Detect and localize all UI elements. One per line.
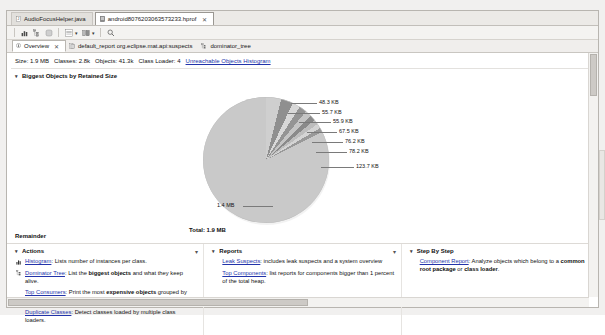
editor-tab-hprof[interactable]: android8076203063573233.hprof ✕ [95, 12, 215, 25]
vertical-scrollbar[interactable] [588, 53, 598, 297]
report-top-components-text: Top Components: list reports for compone… [222, 270, 394, 286]
pie-chart: 48.3 KB 55.7 KB 55.9 KB 67.5 KB 76.2 KB … [7, 81, 598, 231]
slice-label-8: 1.4 MB [217, 202, 234, 208]
slice-label-1: 48.3 KB [319, 99, 339, 105]
tab-overview[interactable]: Overview ✕ [12, 40, 66, 52]
mat-tab-row: Overview ✕ default_report org.eclipse.ma… [7, 40, 598, 53]
editor-toolbar: ▾ ▾ [7, 26, 598, 40]
action-histogram[interactable]: Histogram: Lists number of instances per… [15, 258, 197, 266]
close-icon[interactable]: ✕ [54, 43, 59, 50]
panel-step-by-step: ▾ Step By Step Component Report: Analyze… [401, 244, 598, 335]
editor-tab-java-label: AudioFocusHelper.java [24, 16, 86, 22]
group-by-button[interactable] [81, 28, 90, 37]
unreachable-objects-histogram-link[interactable]: Unreachable Objects Histogram [186, 58, 271, 64]
horizontal-scrollbar[interactable] [7, 297, 589, 307]
leader-line-8 [243, 206, 273, 207]
panel-reports-header: ▾ Reports ▾ [212, 248, 394, 254]
panel-reports: ▾ Reports ▾ Leak Suspects: includes leak… [203, 244, 400, 335]
chevron-down-icon[interactable]: ▾ [15, 73, 18, 79]
group-by-caret-icon[interactable]: ▾ [92, 30, 95, 36]
histogram-desc: : Lists number of instances per class. [51, 258, 146, 264]
dominator-tree-link[interactable]: Dominator Tree [25, 270, 65, 276]
editor-tab-java[interactable]: J AudioFocusHelper.java [11, 12, 93, 25]
histogram-icon [15, 258, 22, 266]
panel-step-by-step-title: Step By Step [417, 248, 454, 254]
tree-icon [201, 43, 207, 50]
java-file-icon: J [16, 16, 21, 23]
dominator-tree-icon [15, 270, 22, 286]
chart-section-title: Biggest Objects by Retained Size [22, 73, 117, 79]
heap-summary-line: Size: 1.9 MB Classes: 2.8k Objects: 41.3… [7, 53, 598, 68]
panel-actions-collapse-icon[interactable]: ▾ [195, 248, 198, 255]
chevron-down-icon[interactable]: ▾ [410, 248, 413, 254]
classes-label: Classes: [54, 58, 77, 64]
oql-button[interactable] [44, 28, 53, 37]
size-label: Size: [15, 58, 28, 64]
leader-line-5 [312, 142, 343, 143]
action-dominator-tree-text: Dominator Tree: List the biggest objects… [25, 270, 197, 286]
objects-value: 41.3k [119, 58, 134, 64]
report-top-components[interactable]: Top Components: list reports for compone… [212, 270, 394, 286]
action-duplicate-classes[interactable]: Duplicate Classes: Detect classes loaded… [15, 309, 197, 325]
close-icon[interactable]: ✕ [202, 16, 207, 23]
report-leak-suspects[interactable]: Leak Suspects: includes leak suspects an… [212, 258, 394, 266]
leader-line-2 [288, 113, 320, 114]
histogram-button[interactable] [20, 28, 29, 37]
heap-dump-icon [100, 16, 105, 23]
top-components-link[interactable]: Top Components [222, 270, 266, 276]
editor-tab-hprof-label: android8076203063573233.hprof [108, 16, 197, 22]
action-dominator-tree[interactable]: Dominator Tree: List the biggest objects… [15, 270, 197, 286]
chart-section-header: ▾ Biggest Objects by Retained Size [7, 69, 598, 81]
classloader-value: 4 [177, 58, 180, 64]
vertical-scrollbar-thumb[interactable] [590, 54, 597, 96]
query-browser-button[interactable] [106, 28, 115, 37]
action-histogram-text: Histogram: Lists number of instances per… [25, 258, 147, 266]
thread-overview-button[interactable] [64, 28, 73, 37]
tab-default-report-label: default_report org.eclipse.mat.api:suspe… [78, 43, 192, 49]
right-side-rail [599, 150, 605, 220]
editor-tab-bar: J AudioFocusHelper.java android807620306… [7, 11, 598, 26]
panel-reports-collapse-icon[interactable]: ▾ [393, 248, 396, 255]
remainder-label: Remainder [7, 231, 598, 243]
pie-total-label: Total: 1.9 MB [189, 227, 226, 233]
toolbar-separator-3 [100, 28, 101, 37]
dominator-tree-button[interactable] [32, 28, 41, 37]
panel-actions-header: ▾ Actions ▾ [15, 248, 197, 254]
duplicate-classes-link[interactable]: Duplicate Classes [25, 309, 71, 315]
tab-default-report[interactable]: default_report org.eclipse.mat.api:suspe… [66, 40, 198, 52]
objects-label: Objects: [95, 58, 117, 64]
slice-label-6: 78.2 KB [349, 148, 369, 154]
classes-value: 2.8k [79, 58, 90, 64]
overview-content: Size: 1.9 MB Classes: 2.8k Objects: 41.3… [7, 53, 598, 307]
step-component-report-text: Component Report: Analyze objects which … [420, 258, 592, 274]
panel-reports-title: Reports [219, 248, 242, 254]
chevron-down-icon[interactable]: ▾ [212, 248, 215, 254]
tab-dominator-tree-label: dominator_tree [210, 43, 250, 49]
slice-label-3: 55.9 KB [333, 118, 353, 124]
leader-line-1 [291, 103, 317, 104]
tab-overview-label: Overview [24, 43, 49, 49]
panel-actions: ▾ Actions ▾ Histogram: Lists number of i… [7, 244, 203, 335]
top-consumers-link[interactable]: Top Consumers [25, 289, 66, 295]
chevron-down-icon[interactable]: ▾ [15, 248, 18, 254]
histogram-link[interactable]: Histogram [25, 258, 51, 264]
thread-overview-caret-icon[interactable]: ▾ [75, 30, 78, 36]
panel-step-by-step-header: ▾ Step By Step [410, 248, 592, 254]
horizontal-scrollbar-thumb[interactable] [8, 299, 308, 306]
tab-dominator-tree[interactable]: dominator_tree [198, 40, 256, 52]
panel-actions-title: Actions [22, 248, 44, 254]
leader-line-4 [307, 132, 337, 133]
editor-frame: J AudioFocusHelper.java android807620306… [6, 10, 599, 308]
toolbar-separator-2 [58, 28, 59, 37]
svg-text:J: J [18, 17, 20, 21]
component-report-link[interactable]: Component Report [420, 258, 469, 264]
toolbar-separator [14, 28, 15, 37]
slice-label-4: 67.5 KB [339, 128, 359, 134]
slice-label-5: 76.2 KB [345, 138, 365, 144]
leak-suspects-link[interactable]: Leak Suspects [222, 258, 260, 264]
step-component-report[interactable]: Component Report: Analyze objects which … [410, 258, 592, 274]
leader-line-3 [299, 122, 331, 123]
leader-line-7 [321, 167, 354, 168]
leak-suspects-desc: : includes leak suspects and a system ov… [260, 258, 382, 264]
